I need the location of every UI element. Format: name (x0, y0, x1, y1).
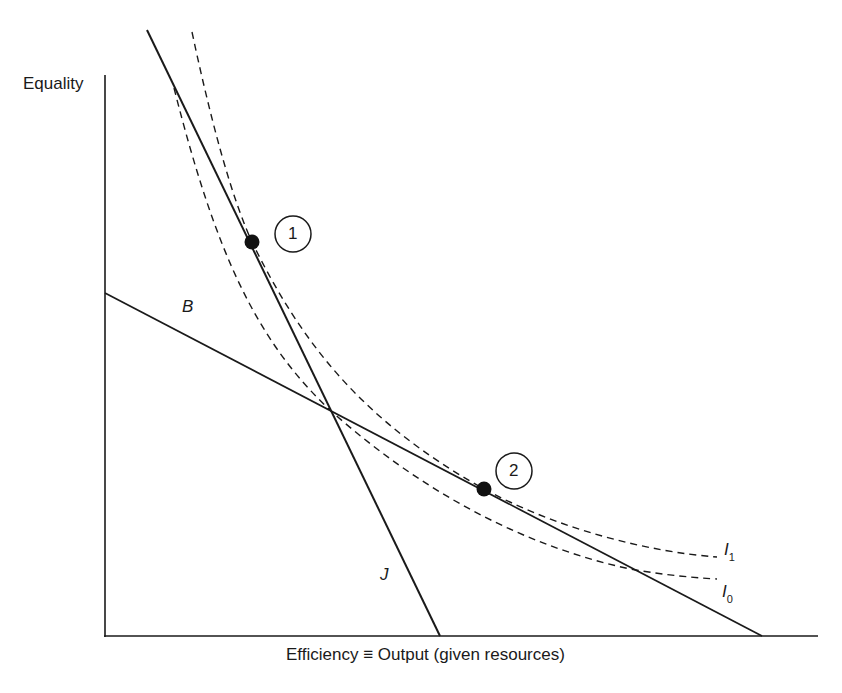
x-axis-label: Efficiency ≡ Output (given resources) (286, 645, 565, 665)
curve-i1-label-sub: 1 (729, 551, 735, 563)
line-j (147, 30, 440, 636)
point-1-label: 1 (288, 224, 297, 244)
y-axis-label: Equality (23, 74, 83, 94)
line-b-label: B (182, 297, 193, 317)
line-j-label: J (380, 565, 389, 585)
curve-i0-label-sub: 0 (727, 593, 733, 605)
point-2-marker (477, 482, 492, 497)
indifference-curve-i0 (174, 88, 717, 579)
diagram-canvas (0, 0, 842, 693)
point-2-label: 2 (509, 461, 518, 481)
curve-i1-label: I1 (724, 540, 735, 560)
curve-i0-label: I0 (722, 582, 733, 602)
point-1-marker (245, 235, 260, 250)
indifference-curve-i1 (192, 32, 717, 557)
line-b (105, 293, 762, 636)
